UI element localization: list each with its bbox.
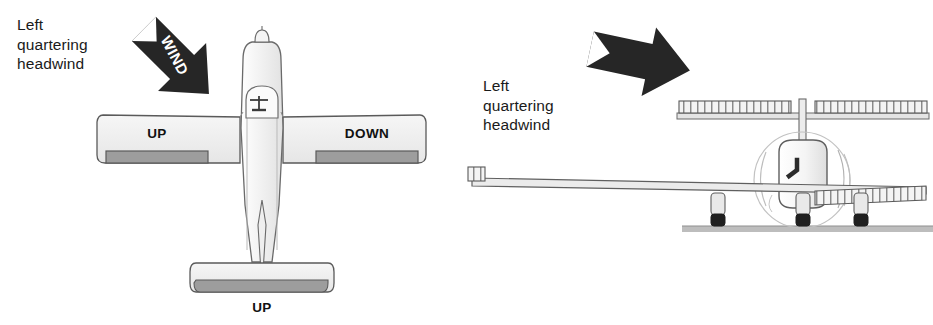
- wind-arrow-icon: [583, 15, 697, 105]
- left-elevator-surface: [679, 101, 791, 113]
- figure-canvas: Left quartering headwind WIND: [0, 0, 933, 325]
- elevator-label: UP: [252, 300, 272, 315]
- panel-top-view: Left quartering headwind WIND: [0, 0, 466, 325]
- right-aileron-surface: [316, 151, 418, 163]
- propeller-icon: [255, 26, 269, 42]
- horizontal-stabilizer: [190, 263, 334, 292]
- right-elevator-surface: [815, 101, 927, 113]
- top-view-drawing: WIND UP DOWN: [0, 0, 466, 325]
- cabin-windshield: [246, 86, 278, 118]
- ground-line: [682, 226, 933, 232]
- front-view-drawing: [466, 0, 933, 325]
- right-aileron-label: DOWN: [345, 126, 389, 141]
- elevator-surface: [194, 280, 328, 292]
- left-aileron-surface: [468, 167, 485, 181]
- panel-front-view: Left quartering headwind: [466, 0, 933, 325]
- left-aileron-surface: [106, 151, 208, 163]
- left-aileron-label: UP: [147, 126, 167, 141]
- left-wing: [97, 115, 240, 163]
